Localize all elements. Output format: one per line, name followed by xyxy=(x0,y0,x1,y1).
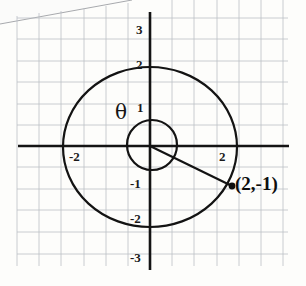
y-tick-label-3: 3 xyxy=(136,23,143,36)
graph-canvas xyxy=(0,0,306,286)
x-tick-label-minus-2: -2 xyxy=(69,150,80,163)
point-coordinate-label: (2,-1) xyxy=(235,174,278,193)
y-tick-label-minus-2: -2 xyxy=(130,212,141,225)
theta-symbol: θ xyxy=(115,102,127,122)
y-tick-label-2: 2 xyxy=(136,58,143,71)
polar-coordinate-figure: 3 2 1 -1 -2 -3 -2 2 θ (2,-1) xyxy=(0,0,306,286)
y-tick-label-minus-3: -3 xyxy=(130,251,141,264)
paper-background xyxy=(0,0,306,286)
y-tick-label-minus-1: -1 xyxy=(130,177,141,190)
x-tick-label-2: 2 xyxy=(219,150,226,163)
y-tick-label-1: 1 xyxy=(137,101,144,114)
